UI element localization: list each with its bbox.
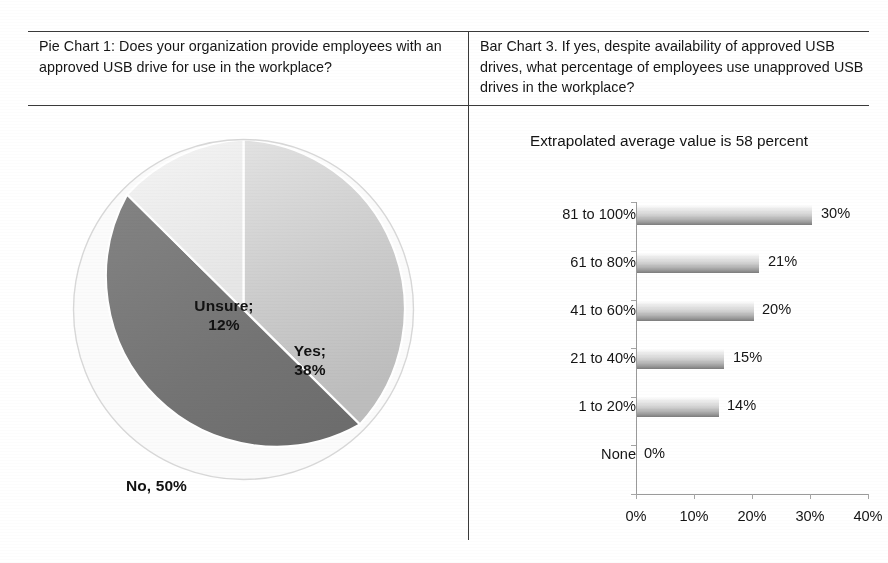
x-axis-tick <box>636 494 637 499</box>
y-axis-tick <box>631 300 636 301</box>
charts-table: Pie Chart 1: Does your organization prov… <box>28 31 869 540</box>
x-axis-tick <box>868 494 869 499</box>
pie-chart-question-header: Pie Chart 1: Does your organization prov… <box>39 36 459 77</box>
x-axis-label-40: 40% <box>840 508 888 524</box>
x-axis-label-20: 20% <box>724 508 780 524</box>
pie-label-no: No, 50% <box>126 476 236 495</box>
bar-category-label-81-to-100: 81 to 100% <box>516 206 636 223</box>
bar-value-1-to-20: 14% <box>727 397 756 414</box>
bar-chart-plot-area: 81 to 100% 61 to 80% 41 to 60% 21 to 40%… <box>469 184 869 540</box>
y-axis-tick <box>631 397 636 398</box>
bar-category-label-41-to-60: 41 to 60% <box>516 302 636 319</box>
bar-41-to-60 <box>637 301 754 321</box>
bar-1-to-20 <box>637 397 719 417</box>
x-axis-label-0: 0% <box>608 508 664 524</box>
x-axis-tick <box>810 494 811 499</box>
x-axis-tick <box>694 494 695 499</box>
bar-value-41-to-60: 20% <box>762 301 791 318</box>
y-axis-line <box>636 202 637 494</box>
table-top-border <box>28 31 869 32</box>
bar-category-label-21-to-40: 21 to 40% <box>516 350 636 367</box>
x-axis-label-10: 10% <box>666 508 722 524</box>
bar-chart-cell: Extrapolated average value is 58 percent… <box>469 106 869 540</box>
bar-21-to-40 <box>637 349 724 369</box>
x-axis-label-30: 30% <box>782 508 838 524</box>
bar-value-none: 0% <box>644 445 665 462</box>
bar-chart-question-header: Bar Chart 3. If yes, despite availabilit… <box>480 36 864 98</box>
bar-61-to-80 <box>637 253 759 273</box>
pie-label-unsure: Unsure; 12% <box>178 296 270 334</box>
bar-value-61-to-80: 21% <box>768 253 797 270</box>
bar-category-label-61-to-80: 61 to 80% <box>516 254 636 271</box>
y-axis-tick <box>631 445 636 446</box>
y-axis-tick <box>631 251 636 252</box>
x-axis-tick <box>752 494 753 499</box>
bar-value-81-to-100: 30% <box>821 205 850 222</box>
pie-label-yes: Yes; 38% <box>271 341 349 379</box>
y-axis-tick <box>631 348 636 349</box>
y-axis-tick <box>631 202 636 203</box>
bar-category-label-1-to-20: 1 to 20% <box>516 398 636 415</box>
bar-chart-title: Extrapolated average value is 58 percent <box>491 130 847 151</box>
pie-chart-cell: Unsure; 12% Yes; 38% No, 50% <box>28 106 468 540</box>
bar-value-21-to-40: 15% <box>733 349 762 366</box>
bar-81-to-100 <box>637 205 812 225</box>
bar-category-label-none: None <box>516 446 636 463</box>
